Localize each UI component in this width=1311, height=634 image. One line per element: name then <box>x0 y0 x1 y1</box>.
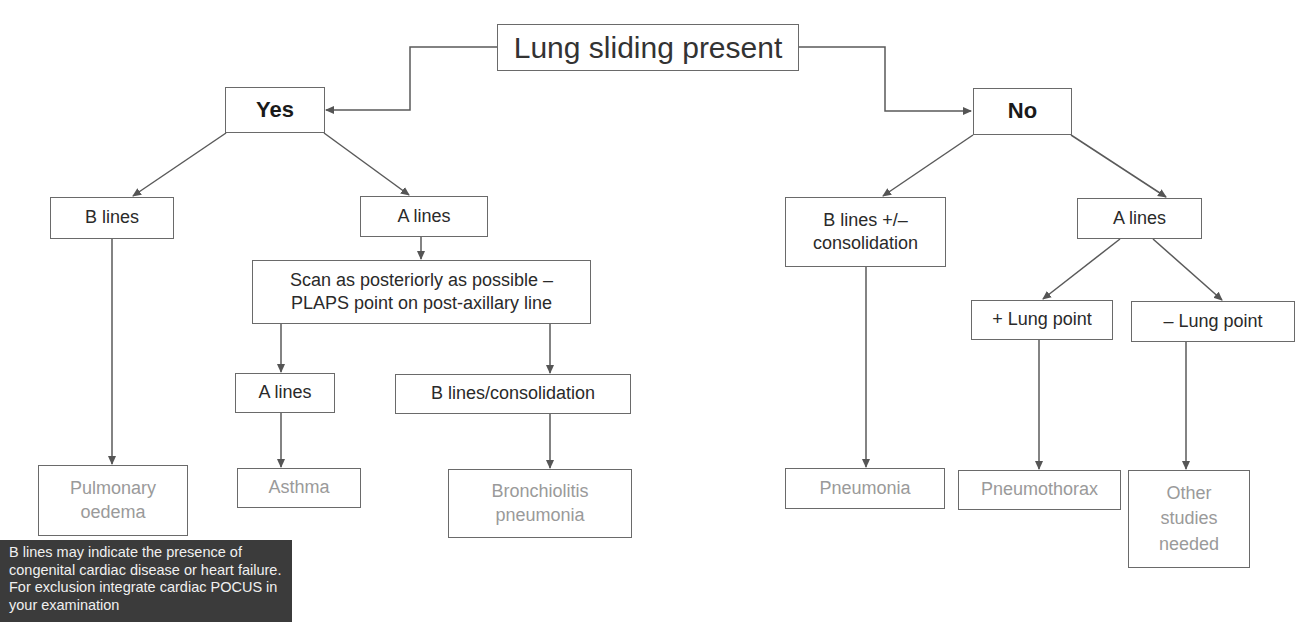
node-no: No <box>973 88 1072 135</box>
node-plus-lung-point: + Lung point <box>971 300 1113 340</box>
outcome-asthma: Asthma <box>237 468 361 508</box>
node-minus-lung-point: – Lung point <box>1131 301 1295 342</box>
outcome-other-studies-needed: Other studies needed <box>1128 470 1250 568</box>
node-yes-b-lines: B lines <box>50 197 174 239</box>
outcome-pneumothorax: Pneumothorax <box>958 470 1121 510</box>
node-plaps-b-lines-consolidation: B lines/consolidation <box>395 374 631 414</box>
node-plaps-a-lines: A lines <box>235 373 335 413</box>
node-lung-sliding-present: Lung sliding present <box>497 24 799 71</box>
connector-lines <box>0 0 1311 634</box>
node-yes: Yes <box>225 87 325 133</box>
outcome-bronchiolitis-pneumonia: Bronchiolitis pneumonia <box>448 469 632 538</box>
node-no-a-lines: A lines <box>1077 198 1202 239</box>
cardiac-note-callout: B lines may indicate the presence of con… <box>0 540 292 622</box>
node-no-b-lines-consolidation: B lines +/– consolidation <box>785 197 946 267</box>
outcome-pneumonia: Pneumonia <box>785 468 945 509</box>
node-scan-posterior: Scan as posteriorly as possible – PLAPS … <box>252 260 591 324</box>
node-yes-a-lines: A lines <box>360 196 488 237</box>
outcome-pulmonary-oedema: Pulmonary oedema <box>38 465 188 536</box>
